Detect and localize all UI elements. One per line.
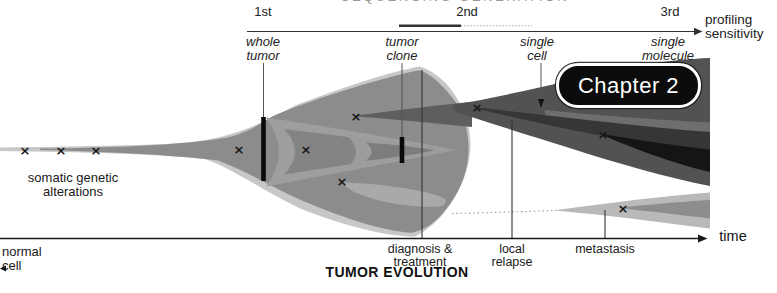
figure-title-tumor-evolution: TUMOR EVOLUTION	[326, 265, 469, 280]
time-axis-label: time	[719, 229, 746, 244]
generation-label-1st: 1st	[254, 5, 271, 19]
generation-label-2nd: 2nd	[456, 5, 478, 19]
event-label-local-relapse: local relapse	[492, 243, 533, 269]
generation-label-3rd: 3rd	[661, 5, 680, 19]
mutation-mark: ×	[234, 142, 245, 157]
mutation-mark: ×	[56, 143, 67, 158]
mutation-mark: ×	[351, 109, 362, 124]
mutation-mark: ×	[337, 174, 348, 189]
method-label-single-molecule: single molecule	[642, 35, 694, 62]
profiling-axis-arrowhead	[694, 28, 703, 35]
tumor-clone-biopsy-bar	[400, 137, 405, 163]
whole-tumor-biopsy-bar	[261, 117, 266, 181]
method-label-single-cell: single cell	[520, 35, 554, 62]
somatic-alterations-label: somatic genetic alterations	[28, 171, 118, 198]
normal-cell-label: normal cell	[2, 245, 42, 272]
chapter-badge-label: Chapter 2	[578, 73, 679, 99]
method-label-tumor-clone: tumor clone	[385, 35, 418, 62]
dormant-dotted-line	[452, 210, 557, 213]
time-axis-arrowhead	[698, 235, 708, 243]
profiling-sensitivity-label: profiling sensitivity	[705, 13, 764, 41]
event-label-metastasis: metastasis	[575, 243, 635, 256]
mutation-mark: ×	[301, 142, 312, 157]
mutation-mark: ×	[472, 100, 483, 115]
mutation-mark: ×	[618, 201, 629, 216]
method-label-whole-tumor: whole tumor	[246, 35, 280, 62]
chapter-badge: Chapter 2	[556, 63, 701, 108]
mutation-mark: ×	[20, 143, 31, 158]
cropped-figure-title: SEQUENCING GENERATION	[341, 0, 570, 4]
mutation-mark: ×	[91, 143, 102, 158]
tumor-evolution-figure: ×××××××××× SEQUENCING GENERATION 1st 2nd…	[0, 0, 777, 293]
mutation-mark: ×	[598, 127, 609, 142]
